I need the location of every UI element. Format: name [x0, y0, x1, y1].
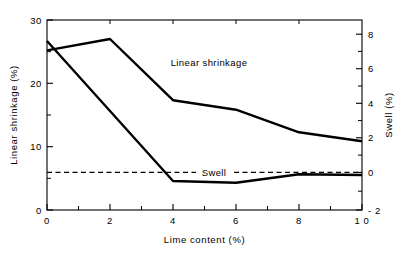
y2tick-label-6: 6: [368, 63, 374, 74]
ytick-label-20: 20: [30, 78, 42, 89]
xtick-label-6: 6: [233, 215, 239, 226]
ytick-label-0: 0: [36, 205, 42, 216]
ytick-label-10: 10: [30, 141, 42, 152]
ytick-label-30: 30: [30, 15, 42, 26]
xtick-label-4: 4: [170, 215, 176, 226]
chart-background: [0, 0, 401, 254]
y2tick-label-2: 2: [368, 132, 374, 143]
x-axis-title: Lime content (%): [164, 234, 245, 245]
y2tick-label-0: 0: [368, 167, 374, 178]
y-axis-title: Linear shrinkage (%): [8, 65, 19, 165]
linear-shrinkage-swell-chart: 30 20 10 0 - 2 0 2 4 6 8 0 2 4 6 8 1 0 L…: [0, 0, 401, 254]
y2tick-label-4: 4: [368, 98, 374, 109]
y2tick-label-8: 8: [368, 29, 374, 40]
xtick-label-10: 1 0: [354, 215, 369, 226]
xtick-label-8: 8: [296, 215, 302, 226]
chart-figure: 30 20 10 0 - 2 0 2 4 6 8 0 2 4 6 8 1 0 L…: [0, 0, 401, 254]
xtick-label-0: 0: [44, 215, 50, 226]
annotation-swell: Swell: [202, 167, 227, 178]
y2tick-label-minus2: - 2: [368, 205, 381, 216]
y2-axis-title: Swell (%): [383, 92, 394, 138]
annotation-swell-group: Swell: [196, 166, 232, 178]
xtick-label-2: 2: [107, 215, 113, 226]
annotation-linear-shrinkage: Linear shrinkage: [171, 57, 248, 68]
